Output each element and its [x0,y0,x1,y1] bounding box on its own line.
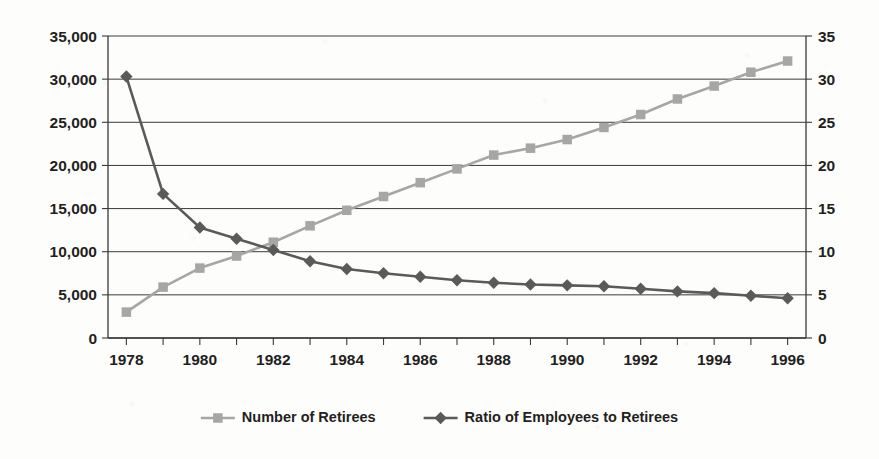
chart-legend[interactable]: Number of RetireesRatio of Employees to … [201,409,678,425]
x-axis-tick-label: 1982 [256,351,290,368]
x-axis-tick-label: 1996 [770,351,805,368]
y-axis-right-tick-label: 35 [818,28,836,45]
data-point-marker [379,192,389,202]
data-point-marker [746,67,756,77]
data-point-marker [673,94,683,104]
data-point-marker [489,150,499,160]
data-point-marker [414,271,426,283]
y-axis-right-tick-label: 25 [818,114,836,131]
y-axis-left-tick-label: 15,000 [50,200,97,217]
data-point-marker [671,285,683,297]
series-2 [120,70,794,304]
data-point-marker [488,277,500,289]
data-point-marker [781,292,793,304]
y-axis-left-tick-label: 0 [88,330,97,347]
data-point-marker [341,263,353,275]
x-axis-tick-label: 1992 [623,351,657,368]
legend-marker-square-icon [213,413,223,423]
y-axis-right-tick-label: 0 [818,330,827,347]
chart-canvas: 05,00010,00015,00020,00025,00030,00035,0… [0,0,879,459]
y-axis-right-tick-label: 10 [818,243,835,260]
legend-item-1[interactable]: Number of Retirees [201,409,376,425]
data-point-marker [232,251,242,261]
data-point-marker [158,282,168,292]
x-axis-tick-label: 1994 [697,351,732,368]
x-axis-tick-label: 1978 [109,351,144,368]
data-point-marker [305,221,315,231]
data-point-marker [526,143,536,153]
y-axis-left-tick-label: 30,000 [50,71,97,88]
data-point-marker [598,280,610,292]
data-point-marker [304,255,316,267]
x-axis-tick-label: 1984 [330,351,365,368]
tick-marks-group [102,36,812,345]
y-axis-right-tick-label: 15 [818,200,836,217]
data-point-marker [377,267,389,279]
legend-marker-diamond-icon [434,412,446,424]
data-point-marker [122,307,132,317]
y-axis-left-tick-label: 10,000 [50,243,97,260]
data-point-marker [783,56,793,66]
y-axis-left-tick-label: 25,000 [50,114,97,131]
legend-item-2[interactable]: Ratio of Employees to Retirees [424,409,679,425]
y-axis-right-tick-label: 5 [818,286,827,303]
data-point-marker [230,233,242,245]
y-axis-left-tick-label: 20,000 [50,157,97,174]
dual-axis-line-chart: 05,00010,00015,00020,00025,00030,00035,0… [0,0,879,459]
x-axis-tick-label: 1988 [476,351,511,368]
data-point-marker [416,178,426,188]
x-axis-tick-label: 1990 [550,351,584,368]
data-point-marker [120,70,132,82]
legend-label: Number of Retirees [242,409,376,425]
y-axis-right-tick-label: 30 [818,71,835,88]
data-point-marker [195,263,205,273]
data-point-marker [561,279,573,291]
legend-label: Ratio of Employees to Retirees [465,409,679,425]
data-point-marker [708,287,720,299]
series-line [126,77,787,299]
data-point-marker [524,278,536,290]
data-point-marker [451,274,463,286]
data-point-marker [342,206,352,216]
x-axis-tick-label: 1980 [183,351,217,368]
data-point-marker [636,110,646,120]
data-series-group [120,56,794,317]
x-axis-tick-label: 1986 [403,351,438,368]
y-axis-left-tick-label: 5,000 [58,286,97,303]
y-axis-right-tick-label: 20 [818,157,835,174]
data-point-marker [599,123,609,133]
y-axis-left-tick-label: 35,000 [50,28,97,45]
data-point-marker [709,81,719,91]
data-point-marker [634,283,646,295]
data-point-marker [452,164,462,174]
data-point-marker [745,290,757,302]
data-point-marker [562,135,572,145]
